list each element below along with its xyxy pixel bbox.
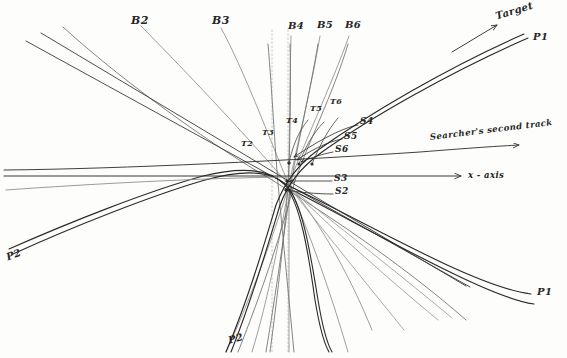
bearing-line-b2 bbox=[141, 26, 372, 330]
diagram-svg bbox=[0, 0, 567, 358]
target-track-lines bbox=[63, 27, 466, 352]
low-slope-line bbox=[6, 177, 288, 190]
target-arrow bbox=[452, 25, 497, 52]
p1-upper-branch bbox=[231, 38, 528, 352]
straight-line-a bbox=[26, 41, 470, 287]
lower-fan-lines bbox=[290, 188, 452, 330]
diagram-canvas: B2 B3 B4 B5 B6 T2 T3 T4 T5 T6 S4 S5 S6 S… bbox=[0, 0, 567, 358]
searcher-second-track-line bbox=[4, 145, 519, 170]
